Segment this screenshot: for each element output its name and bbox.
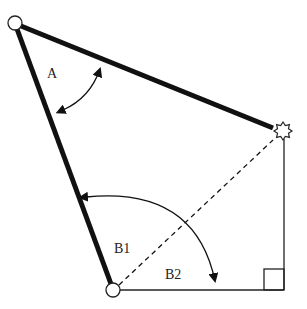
angle-a-arc xyxy=(63,69,100,110)
linkage-diagram: A B1 B2 xyxy=(0,0,307,309)
top-joint-icon xyxy=(8,16,22,30)
left-link xyxy=(17,29,111,284)
upper-link xyxy=(21,26,273,128)
bottom-joint-icon xyxy=(106,283,120,297)
angle-b1-label: B1 xyxy=(114,241,130,256)
star-marker-icon xyxy=(274,122,292,140)
right-angle-icon xyxy=(264,269,284,290)
angle-a-label: A xyxy=(47,66,58,81)
dashed-diagonal xyxy=(119,140,273,285)
angle-b2-label: B2 xyxy=(165,267,181,282)
